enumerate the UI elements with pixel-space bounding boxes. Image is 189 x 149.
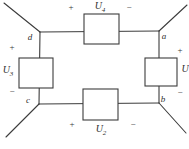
label-u2-sub: 2 <box>103 129 107 137</box>
minus-u3: − <box>9 87 14 96</box>
label-u3-sub: 3 <box>10 70 14 78</box>
element-box-u4 <box>84 14 119 44</box>
label-u4-sub: 4 <box>102 6 106 14</box>
label-u1-base: U <box>181 63 188 74</box>
minus-u2: − <box>130 120 135 129</box>
label-u1: U <box>181 64 188 77</box>
node-d: d <box>28 33 33 42</box>
minus-u4: − <box>126 3 131 12</box>
element-box-u3 <box>19 58 53 88</box>
lead-top-left <box>4 3 40 32</box>
circuit-wires <box>0 0 189 149</box>
node-b: b <box>161 95 166 104</box>
node-c: c <box>26 96 30 105</box>
minus-u1: − <box>177 88 182 97</box>
label-u4: U4 <box>95 1 106 14</box>
plus-u2: + <box>69 120 74 129</box>
plus-u4: + <box>68 3 73 12</box>
node-a: a <box>162 32 167 41</box>
label-u3: U3 <box>3 65 14 78</box>
lead-bottom-right <box>159 103 186 133</box>
plus-u3: + <box>9 43 14 52</box>
label-u2: U2 <box>96 124 107 137</box>
lead-bottom-left <box>6 104 39 137</box>
element-box-u2 <box>83 89 118 120</box>
circuit-diagram: U4 + − U3 + − U + − U2 + − d a c b <box>0 0 189 149</box>
element-box-u1 <box>145 58 177 86</box>
plus-u1: + <box>177 46 182 55</box>
lead-top-right <box>159 5 187 31</box>
